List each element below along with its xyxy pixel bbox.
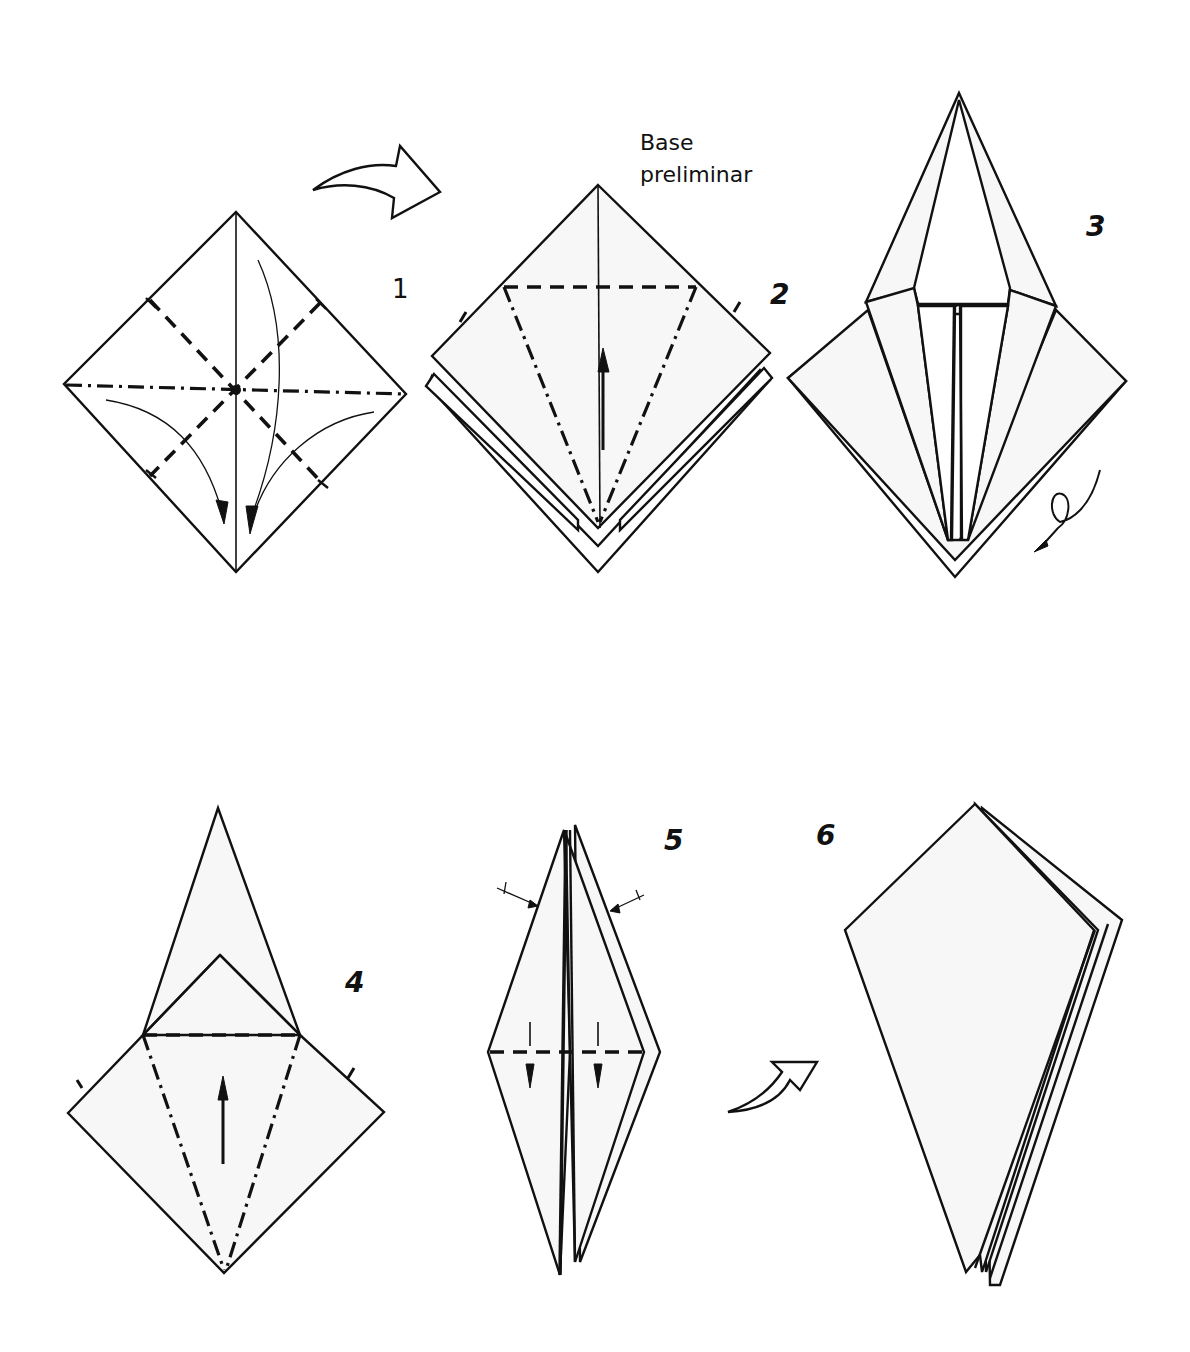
turn-over-icon xyxy=(313,146,440,218)
step-1-label: 1 xyxy=(392,274,409,304)
caption-line-1: Base xyxy=(640,130,694,155)
step-5-figure: 5 xyxy=(488,824,683,1275)
flip-loop-icon xyxy=(1034,470,1100,552)
step-3-label: 3 xyxy=(1086,210,1105,243)
step-2-label: 2 xyxy=(770,278,789,311)
step-3-figure: 3 xyxy=(788,93,1126,577)
step-1-figure: 1 xyxy=(64,212,409,572)
step-4-figure: 4 xyxy=(68,808,384,1273)
origami-diagram: 1 2 Base preliminar xyxy=(0,0,1190,1352)
step-4-label: 4 xyxy=(344,966,364,999)
step-5-label: 5 xyxy=(664,824,683,857)
step-6-figure: 6 xyxy=(816,804,1122,1285)
step-2-figure: 2 xyxy=(426,185,789,572)
caption-line-2: preliminar xyxy=(640,162,753,187)
rotate-arrow-icon xyxy=(728,1062,817,1112)
step-6-label: 6 xyxy=(816,819,835,852)
